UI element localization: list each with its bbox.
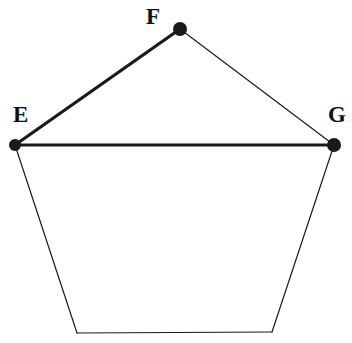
geometry-figure: E F G: [0, 0, 352, 343]
edge-f-g: [180, 29, 334, 145]
figure-canvas: E F G: [0, 0, 352, 343]
vertex-label-f: F: [146, 4, 160, 29]
vertex-label-e: E: [13, 102, 28, 127]
vertex-dot-f: [173, 22, 187, 36]
edge-g-br: [272, 145, 334, 332]
edge-br-bl: [77, 332, 272, 333]
edge-bl-e: [15, 145, 77, 333]
vertex-dot-g: [327, 138, 341, 152]
vertex-dot-e: [9, 139, 21, 151]
vertex-label-g: G: [328, 102, 346, 127]
edge-e-f: [15, 29, 180, 145]
